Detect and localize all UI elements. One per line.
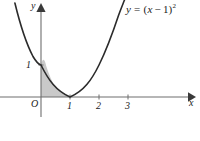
- parabola-figure: y x O 1 1 2 3 y=(x−1)2: [0, 0, 200, 141]
- x-tick-label-2: 2: [96, 101, 101, 111]
- x-axis-label: x: [189, 98, 193, 108]
- y-axis-arrowhead: [36, 3, 45, 12]
- plot-canvas: [0, 0, 200, 141]
- y-axis-label: y: [31, 1, 35, 11]
- equation-exponent: 2: [172, 2, 176, 10]
- equation-lhs: y: [126, 3, 131, 15]
- equation-equals: =: [134, 3, 140, 15]
- parabola-curve: [15, 0, 125, 97]
- equation-minus: −: [154, 3, 160, 15]
- x-tick-label-1: 1: [67, 101, 72, 111]
- equation-label: y=(x−1)2: [126, 4, 176, 15]
- x-tick-label-3: 3: [125, 101, 130, 111]
- origin-label: O: [31, 99, 38, 109]
- equation-variable: x: [147, 3, 152, 15]
- y-tick-label-1: 1: [26, 60, 31, 70]
- shaded-region: [41, 60, 70, 97]
